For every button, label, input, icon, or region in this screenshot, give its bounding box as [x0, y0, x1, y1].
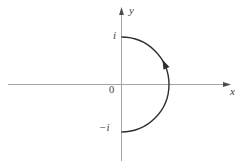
y-axis-label: y [129, 5, 134, 16]
point-i-label: i [113, 30, 116, 41]
contour-direction-arrowhead-icon [159, 58, 169, 69]
origin-label: 0 [109, 85, 114, 96]
figure-canvas [0, 0, 245, 167]
x-axis-label: x [230, 86, 235, 97]
complex-plane-figure: y x 0 i −i [0, 0, 245, 167]
point-minus-i-label: −i [99, 122, 109, 133]
y-axis-arrowhead-icon [119, 7, 124, 15]
